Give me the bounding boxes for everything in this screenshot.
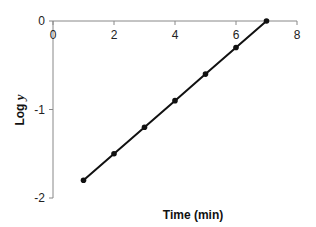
x-tick-label: 8 [294,28,301,42]
x-tick-label: 4 [172,28,179,42]
tick-labels: 024680-1-2 [34,14,300,205]
y-axis-title-main: Log [13,100,27,125]
data-point-marker [172,98,178,104]
data-point-marker [142,124,148,130]
x-tick-label: 2 [111,28,118,42]
x-tick-label: 6 [233,28,240,42]
data-point-marker [111,151,117,157]
data-point-marker [81,178,87,184]
y-tick-label: -1 [34,103,45,117]
y-axis-title: Log y [12,94,27,125]
line-chart: 024680-1-2 Time (min) Log y [0,0,316,227]
x-axis-title: Time (min) [163,208,223,222]
data-point-marker [233,45,239,51]
y-tick-label: 0 [38,14,45,28]
x-tick-label: 0 [50,28,57,42]
data-series [81,18,270,183]
y-tick-label: -2 [34,191,45,205]
data-point-marker [264,18,270,24]
y-axis-title-var: y [12,94,27,102]
axes [49,21,297,198]
data-point-marker [203,71,209,77]
